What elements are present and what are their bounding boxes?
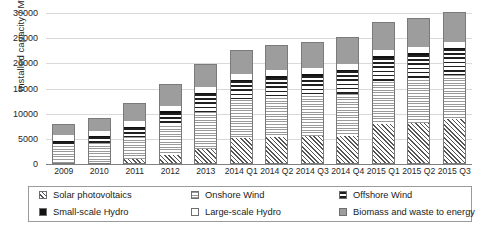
legend-label: Biomass and waste to energy [353,208,475,217]
bar-segment-biomass-and-waste-to-energy [160,85,181,105]
x-axis-tick-label: 2014 Q2 [259,166,295,176]
legend-swatch-icon [39,208,47,216]
bar-segment-onshore-wind [373,82,394,125]
bar-segment-offshore-wind [266,78,287,98]
bar-segment-offshore-wind [408,55,429,80]
bar-2015-q3 [443,12,466,164]
bar-segment-onshore-wind [408,80,429,124]
bar-segment-offshore-wind [373,58,394,82]
bar-segment-onshore-wind [337,94,358,136]
bar-segment-solar-photovoltaics [266,137,287,163]
legend-swatch-icon [339,208,347,216]
bar-2011 [123,103,146,164]
bar-2015-q2 [407,18,430,164]
bar-segment-biomass-and-waste-to-energy [302,43,323,68]
bar-segment-solar-photovoltaics [337,136,358,163]
bar-segment-biomass-and-waste-to-energy [89,119,110,131]
bar-2009 [52,124,75,164]
bar-2013 [194,64,217,164]
legend-label: Offshore Wind [353,191,412,200]
bar-segment-offshore-wind [302,76,323,96]
legend-item-onshore-wind: Onshore Wind [185,191,333,200]
y-axis-tick-label: 20000 [13,58,38,68]
bar-segment-offshore-wind [124,128,145,137]
bar-segment-biomass-and-waste-to-energy [231,51,252,74]
y-axis-tick-labels: 050001000015000200002500030000 [0,13,42,164]
y-axis-tick-label: 30000 [13,8,38,18]
bar-segment-solar-photovoltaics [373,124,394,163]
bar-2014-q1 [230,50,253,164]
plot-area [46,13,472,164]
bar-segment-onshore-wind [302,96,323,137]
x-axis-tick-label: 2014 Q3 [295,166,331,176]
legend-item-offshore-wind: Offshore Wind [333,191,475,200]
y-axis-tick-label: 15000 [13,84,38,94]
x-axis-tick-label: 2015 Q3 [437,166,473,176]
legend-swatch-icon [339,191,347,199]
legend-label: Small-scale Hydro [53,208,128,217]
bar-2014-q3 [301,42,324,164]
bar-segment-solar-photovoltaics [302,136,323,163]
bar-segment-onshore-wind [231,100,252,139]
gridline [46,164,472,165]
legend-swatch-icon [191,208,199,216]
x-axis-tick-label: 2012 [153,166,189,176]
y-axis-tick-label: 25000 [13,33,38,43]
x-axis-tick-label: 2015 Q1 [366,166,402,176]
bar-segment-onshore-wind [53,146,74,163]
bar-segment-onshore-wind [160,126,181,155]
bar-segment-offshore-wind [444,49,465,74]
stacked-bar-chart: Installed capacity / MW 0500010000150002… [0,0,484,231]
bar-2014-q2 [265,45,288,164]
bar-segment-biomass-and-waste-to-energy [408,19,429,47]
bar-segment-biomass-and-waste-to-energy [266,46,287,70]
legend-label: Onshore Wind [205,191,264,200]
y-axis-tick-label: 5000 [18,134,38,144]
legend-swatch-icon [191,191,199,199]
chart-legend: Solar photovoltaicsOnshore WindOffshore … [28,186,472,222]
bar-segment-solar-photovoltaics [195,149,216,163]
legend-label: Solar photovoltaics [53,191,132,200]
bar-2014-q4 [336,37,359,164]
x-axis-tick-label: 2010 [82,166,118,176]
legend-item-small-scale-hydro: Small-scale Hydro [33,208,185,217]
x-axis-tick-labels: 200920102011201220132014 Q12014 Q22014 Q… [46,166,472,180]
legend-item-biomass-and-waste-to-energy: Biomass and waste to energy [333,208,475,217]
x-axis-tick-label: 2009 [46,166,82,176]
x-axis-tick-label: 2013 [188,166,224,176]
bar-segment-onshore-wind [266,98,287,138]
bar-segment-solar-photovoltaics [124,159,145,163]
y-axis-tick-label: 10000 [13,109,38,119]
x-axis-tick-label: 2011 [117,166,153,176]
legend-item-large-scale-hydro: Large-scale Hydro [185,208,333,217]
bar-segment-solar-photovoltaics [444,119,465,163]
legend-swatch-icon [39,191,47,199]
bar-2015-q1 [372,22,395,164]
bar-segment-biomass-and-waste-to-energy [373,23,394,50]
bar-segment-onshore-wind [444,75,465,120]
bar-segment-offshore-wind [160,113,181,126]
bar-2012 [159,84,182,164]
bar-segment-solar-photovoltaics [408,123,429,163]
bar-segment-offshore-wind [337,71,358,93]
x-axis-tick-label: 2015 Q2 [401,166,437,176]
bar-segment-biomass-and-waste-to-energy [124,104,145,121]
legend-item-solar-photovoltaics: Solar photovoltaics [33,191,185,200]
bar-group [46,13,472,164]
bar-segment-biomass-and-waste-to-energy [195,65,216,87]
bar-segment-biomass-and-waste-to-energy [444,13,465,42]
legend-label: Large-scale Hydro [205,208,281,217]
bar-segment-onshore-wind [89,143,110,162]
bar-2010 [88,118,111,164]
bar-segment-offshore-wind [231,81,252,99]
x-axis-tick-label: 2014 Q1 [224,166,260,176]
bar-segment-onshore-wind [195,112,216,149]
bar-segment-biomass-and-waste-to-energy [337,38,358,64]
bar-segment-offshore-wind [195,94,216,112]
bar-segment-solar-photovoltaics [231,138,252,163]
x-axis-tick-label: 2014 Q4 [330,166,366,176]
bar-segment-biomass-and-waste-to-energy [53,125,74,135]
y-axis-tick-label: 0 [33,159,38,169]
bar-segment-solar-photovoltaics [160,155,181,163]
bar-segment-onshore-wind [124,137,145,159]
